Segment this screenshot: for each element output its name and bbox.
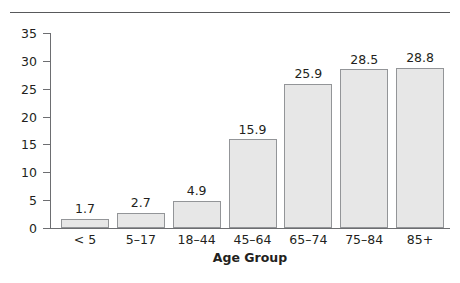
y-axis-tick: 15 — [43, 144, 50, 145]
y-axis-tick: 0 — [43, 228, 50, 229]
y-axis-tick-label: 35 — [21, 28, 37, 41]
y-axis-line — [50, 33, 51, 228]
y-axis-tick: 10 — [43, 172, 50, 173]
bar-chart-figure: 05101520253035 1.7< 52.75–174.918–4415.9… — [0, 0, 460, 283]
plot-area: 05101520253035 1.7< 52.75–174.918–4415.9… — [50, 33, 450, 228]
y-axis-tick-label: 20 — [21, 111, 37, 124]
x-axis-tick-label: 85+ — [407, 234, 433, 247]
bar-value-label: 28.8 — [406, 52, 434, 65]
bar: 25.965–74 — [284, 84, 332, 228]
y-axis-tick-label: 30 — [21, 56, 37, 69]
x-axis-tick-label: 18–44 — [178, 234, 216, 247]
x-axis-tick-label: 5–17 — [126, 234, 156, 247]
y-axis-tick: 5 — [43, 200, 50, 201]
top-rule-divider — [10, 12, 450, 13]
y-axis-tick-label: 25 — [21, 83, 37, 96]
bar: 28.575–84 — [340, 69, 388, 228]
x-axis-tick-label: 65–74 — [289, 234, 327, 247]
bar-value-label: 4.9 — [187, 185, 207, 198]
y-axis-tick: 30 — [43, 61, 50, 62]
x-axis-tick-label: < 5 — [74, 234, 96, 247]
y-axis-tick: 25 — [43, 89, 50, 90]
bar: 28.885+ — [396, 68, 444, 228]
bar-value-label: 25.9 — [294, 68, 322, 81]
x-axis-tick-label: 75–84 — [345, 234, 383, 247]
y-axis-tick: 35 — [43, 33, 50, 34]
bar: 4.918–44 — [173, 201, 221, 228]
bar: 15.945–64 — [229, 139, 277, 228]
x-axis-title: Age Group — [50, 252, 450, 265]
bar-value-label: 15.9 — [239, 124, 267, 137]
bar: 2.75–17 — [117, 213, 165, 228]
bar-value-label: 1.7 — [75, 203, 95, 216]
bar-value-label: 2.7 — [131, 197, 151, 210]
y-axis-tick-label: 0 — [29, 223, 37, 236]
x-axis-line — [50, 228, 450, 229]
bar-value-label: 28.5 — [350, 54, 378, 67]
y-axis-tick: 20 — [43, 117, 50, 118]
bar: 1.7< 5 — [61, 219, 109, 228]
y-axis-tick-label: 15 — [21, 139, 37, 152]
y-axis-tick-label: 10 — [21, 167, 37, 180]
x-axis-tick-label: 45–64 — [233, 234, 271, 247]
y-axis-tick-label: 5 — [29, 195, 37, 208]
